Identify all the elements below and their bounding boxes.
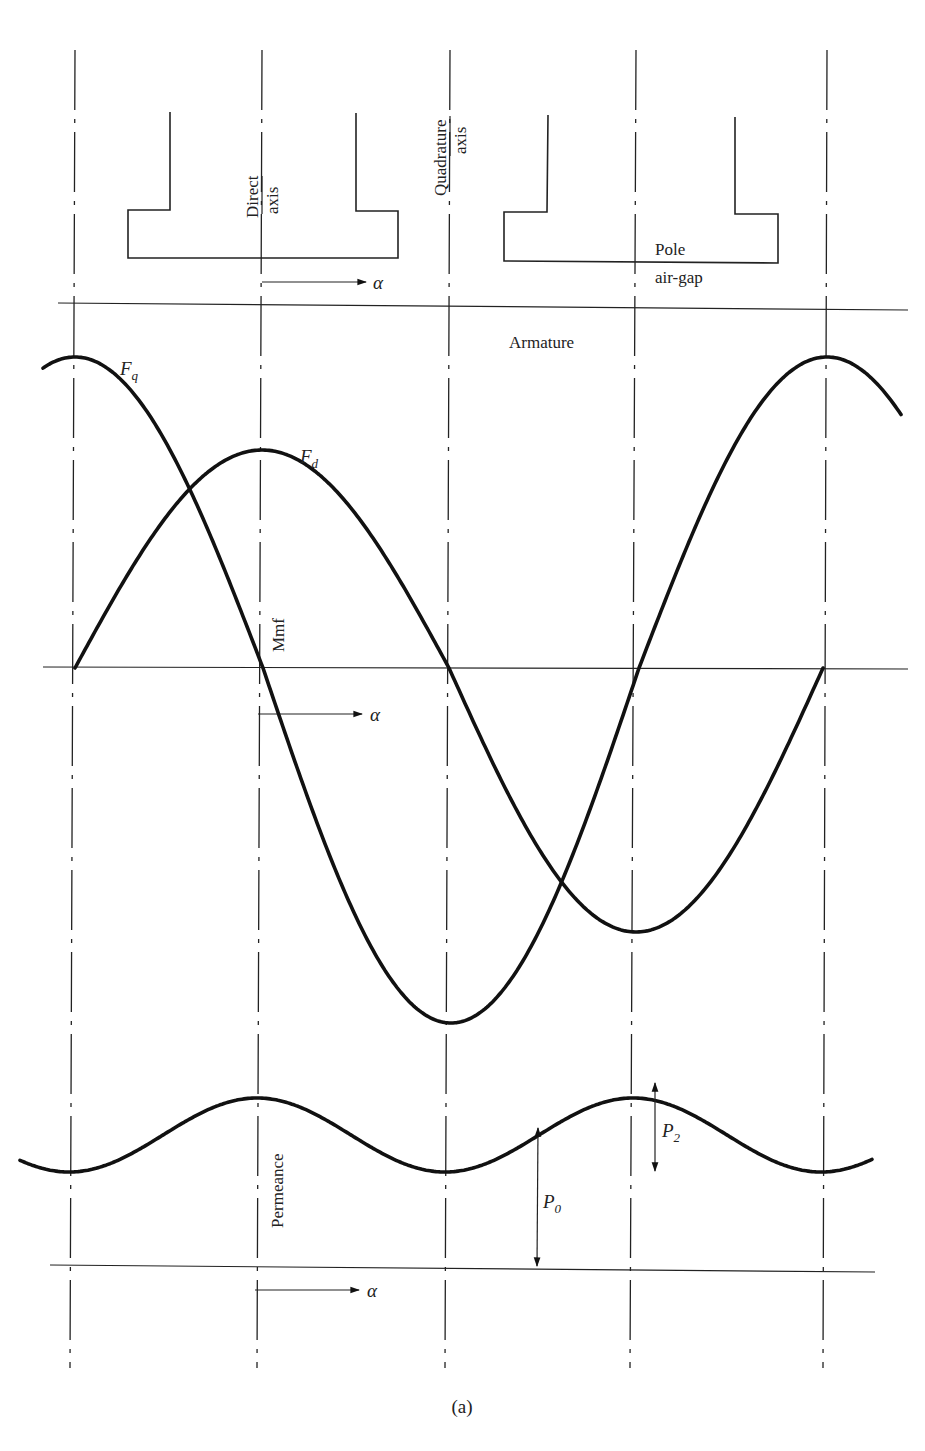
fq-mmf-curve bbox=[43, 357, 901, 1023]
armature-label: Armature bbox=[509, 333, 574, 352]
svg-text:Quadrature: Quadrature bbox=[431, 120, 450, 196]
p0-dimension-arrow bbox=[537, 1128, 538, 1266]
fd-mmf-curve bbox=[75, 450, 823, 932]
axis-line-1 bbox=[257, 50, 262, 1368]
mmf-zero-axis bbox=[43, 667, 908, 669]
pole-shape-left bbox=[128, 112, 398, 258]
axis-line-3 bbox=[630, 50, 636, 1368]
armature-surface-line bbox=[58, 303, 908, 310]
svg-text:axis: axis bbox=[451, 127, 470, 154]
permeance-label: Permeance bbox=[268, 1153, 287, 1228]
pole-shape-right bbox=[504, 115, 778, 263]
direct-axis-label: Direct axis bbox=[243, 175, 282, 218]
alpha-label-permeance: α bbox=[367, 1280, 378, 1301]
quadrature-axis-label: Quadrature axis bbox=[431, 116, 470, 196]
synchronous-machine-diagram: α α α Direct axis Quadrature axis Mmf Pe… bbox=[0, 0, 925, 1451]
permeance-baseline bbox=[50, 1265, 875, 1272]
figure-caption: (a) bbox=[451, 1396, 472, 1418]
p0-label: P0 bbox=[542, 1191, 562, 1216]
svg-text:axis: axis bbox=[263, 187, 282, 214]
svg-text:Permeance: Permeance bbox=[268, 1153, 287, 1228]
alpha-label-top: α bbox=[373, 272, 384, 293]
svg-text:Mmf: Mmf bbox=[269, 618, 288, 652]
mmf-label: Mmf bbox=[269, 618, 288, 652]
pole-label: Pole bbox=[655, 240, 685, 259]
svg-text:Direct: Direct bbox=[243, 175, 262, 218]
alpha-label-mmf: α bbox=[370, 704, 381, 725]
air-gap-label: air-gap bbox=[655, 268, 703, 287]
p2-label: P2 bbox=[661, 1120, 681, 1145]
